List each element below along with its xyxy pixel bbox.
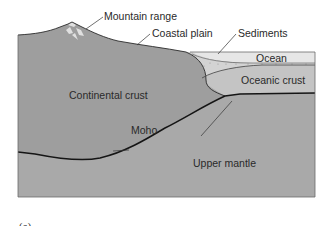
label-ocean: Ocean [256, 52, 287, 64]
label-mountain-range: Mountain range [104, 10, 177, 22]
label-moho: Moho [131, 124, 157, 136]
label-sediments: Sediments [238, 27, 288, 39]
figure-caption: (a) [19, 220, 32, 226]
label-coastal-plain: Coastal plain [152, 27, 213, 39]
continental-margin-cross-section: Mountain range Coastal plain Sediments O… [0, 0, 333, 226]
label-oceanic-crust: Oceanic crust [241, 74, 305, 86]
label-continental-crust: Continental crust [69, 89, 148, 101]
label-upper-mantle: Upper mantle [193, 157, 256, 169]
